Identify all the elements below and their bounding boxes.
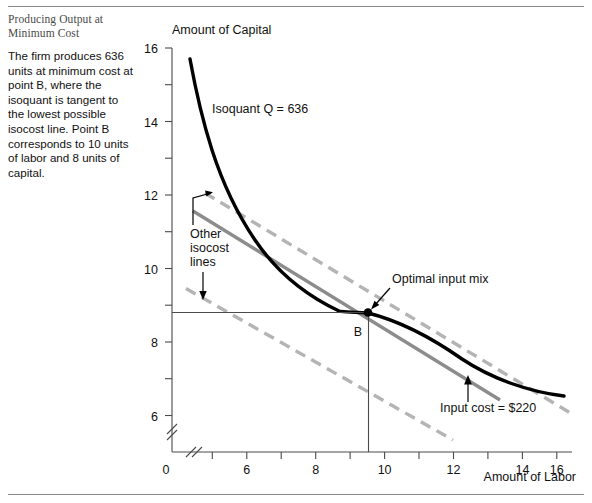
- y-axis-tick-labels: 16 14 12 10 8 6: [144, 42, 158, 424]
- x-tick-label-8: 8: [312, 463, 319, 477]
- other-isocost-label-line3: lines: [190, 255, 216, 269]
- input-cost-label: Input cost = $220: [440, 401, 536, 415]
- x-tick-label-10: 10: [378, 463, 392, 477]
- isocost-line-optimal: [193, 211, 500, 400]
- optimal-input-mix-label: Optimal input mix: [392, 272, 489, 286]
- figure-container: Producing Output at Minimum Cost The fir…: [0, 0, 592, 503]
- optimal-input-mix-arrow-icon: [371, 288, 390, 310]
- y-tick-label-10: 10: [144, 263, 158, 277]
- x-tick-label-14: 14: [515, 463, 529, 477]
- origin-label: 0: [163, 463, 170, 477]
- chart-plot-area: Amount of Capital Amount of Labor: [0, 0, 592, 503]
- isoquant-label: Isoquant Q = 636: [212, 102, 308, 116]
- x-tick-label-6: 6: [243, 463, 250, 477]
- other-isocost-leader-down-icon: [199, 272, 206, 300]
- point-b-label: B: [354, 325, 362, 339]
- x-tick-label-12: 12: [447, 463, 461, 477]
- y-tick-label-8: 8: [151, 336, 158, 350]
- x-axis-tick-labels: 6 8 10 12 14 16: [243, 463, 563, 477]
- y-tick-label-16: 16: [144, 42, 158, 56]
- x-tick-label-16: 16: [550, 463, 564, 477]
- y-tick-label-12: 12: [144, 189, 158, 203]
- isocost-line-upper-dashed: [205, 193, 572, 414]
- other-isocost-label-line1: Other: [190, 227, 221, 241]
- isocost-line-lower-dashed: [186, 289, 453, 441]
- other-isocost-label-line2: isocost: [190, 241, 229, 255]
- y-axis-ticks: [165, 48, 172, 416]
- x-axis-ticks: [212, 452, 557, 459]
- y-tick-label-6: 6: [151, 410, 158, 424]
- y-tick-label-14: 14: [144, 116, 158, 130]
- y-axis-title: Amount of Capital: [172, 23, 271, 37]
